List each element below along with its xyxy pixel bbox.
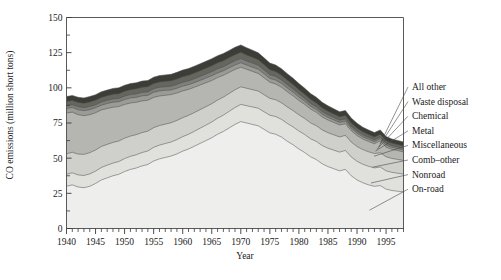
legend-label-nonroad: Nonroad	[412, 170, 445, 180]
y-tick-label: 50	[53, 154, 63, 164]
x-tick-label: 1970	[231, 237, 250, 247]
legend-label-on-road: On-road	[412, 184, 444, 194]
x-tick-label: 1945	[86, 237, 105, 247]
x-tick-label: 1985	[318, 237, 337, 247]
y-tick-label: 25	[53, 189, 63, 199]
legend-label-miscellaneous: Miscellaneous	[412, 140, 467, 150]
x-tick-label: 1965	[202, 237, 221, 247]
y-tick-label: 100	[48, 83, 63, 93]
x-tick-label: 1950	[115, 237, 134, 247]
x-tick-label: 1975	[260, 237, 279, 247]
y-tick-label: 125	[48, 48, 63, 58]
legend-label-comb-other: Comb–other	[412, 155, 460, 165]
stacked-area-chart-figure: 0255075100125150 19401945195019551960196…	[0, 0, 501, 280]
y-tick-label: 150	[48, 13, 63, 23]
legend-label-all-other: All other	[412, 82, 447, 92]
x-axis-title: Year	[236, 251, 254, 261]
y-axis-title: CO emissions (million short tons)	[5, 51, 16, 180]
x-tick-label: 1955	[144, 237, 163, 247]
legend-label-chemical: Chemical	[412, 111, 449, 121]
x-tick-label: 1990	[348, 237, 367, 247]
y-tick-label: 75	[53, 118, 63, 128]
legend-label-waste-disposal: Waste disposal	[412, 97, 469, 107]
chart-canvas: 0255075100125150 19401945195019551960196…	[0, 0, 501, 280]
x-tick-label: 1960	[173, 237, 192, 247]
x-tick-label: 1940	[57, 237, 76, 247]
legend-label-metal: Metal	[412, 126, 435, 136]
y-tick-label: 0	[58, 224, 63, 234]
x-tick-label: 1980	[289, 237, 308, 247]
x-tick-label: 1995	[377, 237, 396, 247]
